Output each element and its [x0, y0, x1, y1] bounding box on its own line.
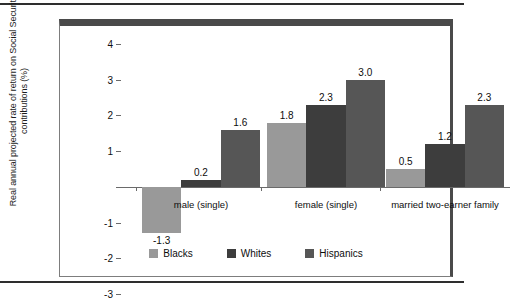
- bar-value-label: 0.2: [194, 167, 208, 178]
- bar-value-label: -1.3: [153, 235, 170, 246]
- category-label: male (single): [174, 199, 228, 210]
- y-axis-title: Real annual projected rate of return on …: [8, 0, 30, 207]
- y-axis-tick: [116, 80, 121, 81]
- bar: 1.8: [267, 123, 306, 187]
- bar-value-label: 1.2: [438, 131, 452, 142]
- y-axis-tick-label: 3: [107, 74, 113, 85]
- y-axis-tick: [116, 294, 121, 295]
- category-label: married two-earner family: [391, 199, 499, 210]
- y-axis-tick-label: 2: [107, 110, 113, 121]
- legend-item: Whites: [227, 248, 272, 259]
- legend-label: Hispanics: [319, 248, 362, 259]
- y-axis-tick-label: -1: [104, 217, 113, 228]
- category-label: female (single): [295, 199, 357, 210]
- y-axis-tick-label: 1: [107, 146, 113, 157]
- bar: 2.3: [306, 105, 345, 187]
- y-axis-tick: [116, 115, 121, 116]
- bar: 1.2: [425, 144, 464, 187]
- bar: 1.6: [221, 130, 260, 187]
- bar-value-label: 2.3: [319, 92, 333, 103]
- bar-value-label: 0.5: [399, 156, 413, 167]
- bar-value-label: 2.3: [477, 92, 491, 103]
- bar: 0.2: [181, 180, 220, 187]
- bar: -1.3: [142, 187, 181, 233]
- y-axis-tick-label: 4: [107, 39, 113, 50]
- bar: 2.3: [465, 105, 504, 187]
- legend-swatch: [149, 249, 158, 258]
- bar: 3.0: [346, 80, 385, 187]
- bar-value-label: 3.0: [358, 67, 372, 78]
- legend-label: Whites: [241, 248, 272, 259]
- legend-label: Blacks: [163, 248, 192, 259]
- y-axis-tick: [116, 151, 121, 152]
- legend-item: Blacks: [149, 248, 192, 259]
- bottom-divider-rule: [0, 281, 464, 283]
- y-axis-tick: [116, 44, 121, 45]
- category-tick: [136, 187, 137, 191]
- y-axis-tick-label: -3: [104, 289, 113, 300]
- legend-swatch: [305, 249, 314, 258]
- top-divider-rule: [0, 3, 464, 5]
- bar-value-label: 1.8: [280, 110, 294, 121]
- chart-figure: Real annual projected rate of return on …: [0, 8, 464, 278]
- legend-item: Hispanics: [305, 248, 362, 259]
- category-tick: [261, 187, 262, 191]
- bar-value-label: 1.6: [233, 117, 247, 128]
- y-axis-tick: [116, 223, 121, 224]
- bar: 0.5: [386, 169, 425, 187]
- legend-swatch: [227, 249, 236, 258]
- category-tick: [380, 187, 381, 191]
- chart-legend: BlacksWhitesHispanics: [59, 248, 453, 259]
- plot-frame: 4321-1-2-3-1.30.21.6male (single)1.82.33…: [59, 19, 453, 277]
